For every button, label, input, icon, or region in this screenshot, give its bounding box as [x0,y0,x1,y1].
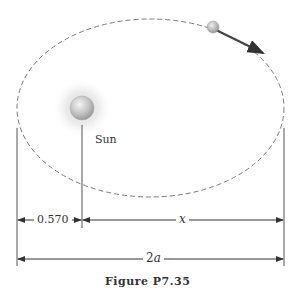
major-axis-label: 2a [143,252,164,264]
major-axis-number: 2 [146,251,154,265]
sun-label: Sun [95,134,117,145]
sun-icon [70,96,94,120]
figure-caption: Figure P7.35 [105,275,190,288]
velocity-arrow [216,30,263,53]
perihelion-distance-label: 0.570 [34,214,72,225]
planet-icon [207,21,219,33]
major-axis-variable: a [154,251,161,265]
x-distance-label: x [176,213,189,225]
